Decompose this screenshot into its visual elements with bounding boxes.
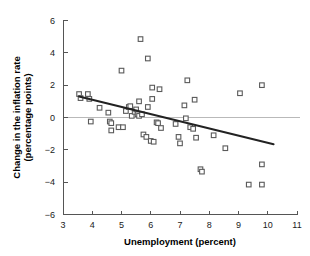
data-point	[157, 87, 162, 92]
y-axis-title-text: (percentage points)	[22, 73, 33, 161]
y-tick-label: 4	[50, 48, 55, 58]
plot-area: 34567891011 6420−2−4−6 Unemployment (per…	[0, 0, 310, 256]
x-tick-label: 4	[90, 220, 95, 230]
data-point	[109, 121, 114, 126]
x-tick-label: 6	[148, 220, 153, 230]
data-point	[238, 91, 243, 96]
x-tick-label: 5	[119, 220, 124, 230]
data-point	[146, 56, 151, 61]
x-axis-title: Unemployment (percent)	[124, 236, 236, 247]
x-tick-label: 8	[207, 220, 212, 230]
data-point	[211, 133, 216, 138]
y-tick-label: −6	[45, 210, 55, 220]
y-axis-title: Change in the inflation rate(percentage …	[11, 56, 33, 178]
data-point	[191, 127, 196, 132]
x-tick-labels: 34567891011	[60, 220, 301, 230]
data-point	[192, 97, 197, 102]
x-tick-label: 10	[263, 220, 273, 230]
data-point	[150, 97, 155, 102]
data-point	[182, 103, 187, 108]
data-point	[156, 121, 161, 126]
data-point	[260, 182, 265, 187]
data-point	[223, 146, 228, 151]
data-point	[185, 78, 190, 83]
x-axis-title-text: Unemployment (percent)	[124, 236, 236, 247]
x-tick-label: 3	[60, 220, 65, 230]
y-tick-label: 6	[50, 16, 55, 26]
y-tick-label: −4	[45, 177, 55, 187]
x-tick-label: 9	[236, 220, 241, 230]
x-tick-label: 7	[177, 220, 182, 230]
y-tick-label: −2	[45, 145, 55, 155]
data-point	[200, 169, 205, 174]
y-tick-label: 2	[50, 80, 55, 90]
data-point	[151, 139, 156, 144]
data-point	[146, 105, 151, 110]
data-point	[109, 128, 114, 133]
scatter-chart: 34567891011 6420−2−4−6 Unemployment (per…	[0, 0, 310, 256]
y-axis-title-text: Change in the inflation rate	[11, 56, 22, 178]
data-point	[184, 116, 189, 121]
data-point	[173, 122, 178, 127]
data-point	[194, 135, 199, 140]
y-tick-label: 0	[50, 113, 55, 123]
data-points	[77, 37, 264, 187]
data-point	[88, 119, 93, 124]
data-point	[176, 135, 181, 140]
data-point	[121, 125, 126, 130]
y-tick-labels: 6420−2−4−6	[45, 16, 55, 220]
data-point	[159, 126, 164, 131]
data-point	[137, 99, 142, 104]
data-point	[246, 182, 251, 187]
data-point	[150, 85, 155, 90]
data-point	[260, 162, 265, 167]
data-point	[138, 37, 143, 42]
data-point	[119, 68, 124, 73]
data-point	[106, 110, 111, 115]
data-point	[97, 106, 102, 111]
data-point	[260, 83, 265, 88]
x-tick-label: 11	[292, 220, 301, 230]
data-point	[86, 92, 91, 97]
data-point	[178, 141, 183, 146]
